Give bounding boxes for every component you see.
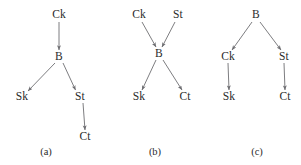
- figure-three-causal-diagrams: CkBSkStCt(a)CkStBSkCt(b)BCkStSkCt(c): [0, 0, 301, 165]
- edge-a-st-to-ct: [83, 103, 85, 130]
- edge-a-b-to-sk: [28, 63, 55, 91]
- node-label-b-ck: Ck: [132, 9, 146, 21]
- panel-caption-b: (b): [149, 147, 161, 158]
- edge-layer: [0, 0, 301, 165]
- node-label-b-sk: Sk: [133, 91, 145, 103]
- edge-b-b-to-ct: [163, 60, 182, 90]
- node-label-a-ct: Ct: [79, 131, 90, 143]
- node-label-c-b: B: [252, 9, 260, 21]
- edge-b-st-to-b: [162, 22, 175, 47]
- panel-caption-a: (a): [40, 147, 52, 158]
- node-label-c-ct: Ct: [279, 91, 290, 103]
- node-label-b-b: B: [155, 48, 163, 60]
- edge-c-st-to-ct: [284, 63, 285, 90]
- node-label-a-b: B: [55, 51, 63, 63]
- panel-caption-c: (c): [251, 147, 263, 158]
- node-label-a-st: St: [75, 91, 85, 103]
- edge-group: [28, 22, 285, 130]
- node-label-a-ck: Ck: [52, 9, 66, 21]
- node-label-b-st: St: [173, 9, 183, 21]
- edge-b-ck-to-b: [142, 22, 156, 47]
- node-label-c-st: St: [279, 51, 289, 63]
- edge-c-b-to-ck: [232, 22, 252, 50]
- edge-b-b-to-sk: [142, 60, 156, 90]
- node-label-c-ck: Ck: [221, 51, 235, 63]
- edge-a-b-to-st: [63, 63, 76, 90]
- edge-c-ck-to-sk: [228, 63, 229, 90]
- node-label-c-sk: Sk: [223, 91, 235, 103]
- node-label-b-ct: Ct: [179, 91, 190, 103]
- edge-c-b-to-st: [260, 22, 281, 50]
- node-label-a-sk: Sk: [16, 91, 28, 103]
